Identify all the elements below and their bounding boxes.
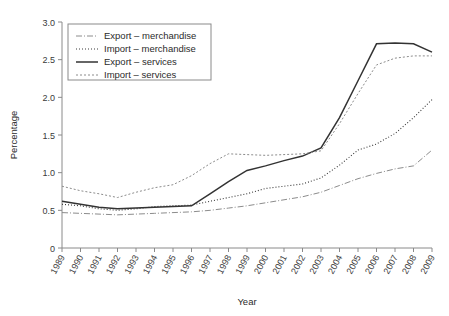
y-tick-label: 3.0 xyxy=(42,18,55,28)
x-tick-label: 2006 xyxy=(363,253,381,275)
y-tick-label: 2.0 xyxy=(42,93,55,103)
series-line-1 xyxy=(62,100,432,211)
x-tick-label: 2009 xyxy=(419,253,437,275)
x-tick-label: 2002 xyxy=(289,253,307,275)
y-tick-label: 1.5 xyxy=(42,131,55,141)
legend-label-2: Export – services xyxy=(104,56,177,67)
x-axis-ticks: 1989199019911992199319941995199619971998… xyxy=(49,248,437,276)
x-tick-label: 1999 xyxy=(234,253,252,275)
x-tick-label: 1991 xyxy=(86,253,104,275)
legend-label-1: Import – merchandise xyxy=(104,43,196,54)
x-tick-label: 1995 xyxy=(160,253,178,275)
x-tick-label: 2001 xyxy=(271,253,289,275)
x-tick-label: 2007 xyxy=(382,253,400,275)
x-tick-label: 1992 xyxy=(104,253,122,275)
x-tick-label: 1989 xyxy=(49,253,67,275)
x-tick-label: 2003 xyxy=(308,253,326,275)
y-tick-label: 0 xyxy=(50,244,55,254)
x-tick-label: 2000 xyxy=(252,253,270,275)
chart-figure: 00.51.01.52.02.53.0 19891990199119921993… xyxy=(0,0,449,316)
x-tick-label: 1996 xyxy=(178,253,196,275)
y-axis-ticks: 00.51.01.52.02.53.0 xyxy=(42,18,62,254)
x-tick-label: 1998 xyxy=(215,253,233,275)
x-tick-label: 1994 xyxy=(141,253,159,275)
legend-label-0: Export – merchandise xyxy=(104,30,196,41)
x-axis-title: Year xyxy=(237,296,256,307)
x-tick-label: 2008 xyxy=(400,253,418,275)
x-tick-label: 1993 xyxy=(123,253,141,275)
chart-legend: Export – merchandiseImport – merchandise… xyxy=(68,24,211,80)
x-tick-label: 1997 xyxy=(197,253,215,275)
y-axis-title: Percentage xyxy=(8,111,19,160)
y-tick-label: 2.5 xyxy=(42,55,55,65)
y-tick-label: 1.0 xyxy=(42,168,55,178)
x-tick-label: 2005 xyxy=(345,253,363,275)
y-tick-label: 0.5 xyxy=(42,206,55,216)
x-tick-label: 2004 xyxy=(326,253,344,275)
legend-label-3: Import – services xyxy=(104,69,177,80)
x-tick-label: 1990 xyxy=(67,253,85,275)
line-chart: 00.51.01.52.02.53.0 19891990199119921993… xyxy=(0,0,449,316)
series-line-0 xyxy=(62,150,432,215)
